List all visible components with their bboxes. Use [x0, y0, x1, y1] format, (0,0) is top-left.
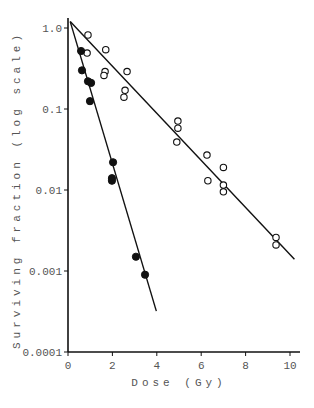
- x-tick-label: 4: [153, 360, 160, 372]
- open-circle-point: [124, 68, 130, 74]
- y-tick-label: 0.0001: [22, 347, 62, 359]
- y-tick-label: 1.0: [42, 23, 62, 35]
- open-circle-point: [273, 234, 279, 240]
- y-tick-label: 0.01: [36, 185, 63, 197]
- open-circle-point: [103, 46, 109, 52]
- fit-line: [70, 22, 294, 260]
- open-circle-point: [175, 125, 181, 131]
- open-circle-point: [220, 164, 226, 170]
- open-circle-point: [121, 94, 127, 100]
- open-circle-point: [220, 182, 226, 188]
- fit-lines: [70, 22, 294, 311]
- x-tick-label: 2: [109, 360, 116, 372]
- open-circle-point: [122, 87, 128, 93]
- survival-chart: 02468101.00.10.010.0010.0001Dose (Gy)Sur…: [0, 0, 314, 408]
- y-tick-label: 0.1: [42, 104, 62, 116]
- filled-circle-point: [78, 67, 85, 74]
- filled-circle-point: [77, 47, 84, 54]
- y-axis-title: Surviving fraction (log scale): [11, 31, 23, 349]
- x-axis-title: Dose (Gy): [131, 377, 226, 389]
- filled-circle-point: [87, 79, 94, 86]
- filled-circle-point: [108, 177, 115, 184]
- filled-circle-point: [86, 98, 93, 105]
- open-circle-point: [273, 242, 279, 248]
- y-tick-label: 0.001: [29, 266, 62, 278]
- x-tick-label: 0: [65, 360, 72, 372]
- open-circle-point: [220, 189, 226, 195]
- open-circle-point: [175, 118, 181, 124]
- x-tick-label: 6: [198, 360, 205, 372]
- filled-circle-point: [141, 271, 148, 278]
- axes: [64, 18, 300, 356]
- filled-circle-point: [132, 253, 139, 260]
- x-tick-label: 8: [242, 360, 249, 372]
- data-points: [77, 32, 279, 279]
- open-circle-point: [205, 178, 211, 184]
- open-circle-point: [85, 32, 91, 38]
- open-circle-point: [204, 152, 210, 158]
- filled-circle-point: [109, 159, 116, 166]
- axis-labels: 02468101.00.10.010.0010.0001Dose (Gy)Sur…: [11, 23, 297, 389]
- x-tick-label: 10: [283, 360, 296, 372]
- open-circle-point: [174, 139, 180, 145]
- open-circle-point: [101, 72, 107, 78]
